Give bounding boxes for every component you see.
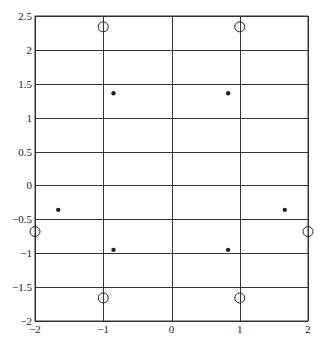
x-tick-label: −1	[97, 323, 109, 335]
y-tick-label: −1	[20, 247, 32, 259]
filled-dot-marker	[111, 91, 115, 95]
y-tick-label: 1	[27, 112, 33, 124]
filled-dot-marker	[283, 208, 287, 212]
x-tick-label: 2	[305, 323, 311, 335]
x-tick-label: 0	[169, 323, 175, 335]
scatter-chart: 2.521.510.50−0.5−1−1.5−2 −2−1012	[0, 0, 325, 348]
x-axis-tick-labels: −2−1012	[29, 323, 311, 335]
y-tick-label: −1.5	[12, 281, 32, 293]
filled-dot-marker	[56, 208, 60, 212]
filled-dot-marker	[226, 248, 230, 252]
y-tick-label: 2	[27, 44, 33, 56]
filled-dot-marker	[226, 91, 230, 95]
y-tick-label: 2.5	[18, 10, 32, 22]
y-axis-tick-labels: 2.521.510.50−0.5−1−1.5−2	[12, 10, 32, 327]
open-circle-marker	[235, 293, 245, 303]
y-tick-label: 0	[27, 179, 33, 191]
x-tick-label: −2	[29, 323, 41, 335]
gridlines	[35, 16, 309, 322]
y-tick-label: 0.5	[18, 146, 32, 158]
plot-frame	[35, 16, 308, 321]
y-tick-label: −0.5	[12, 213, 32, 225]
y-tick-label: 1.5	[18, 78, 32, 90]
filled-dot-marker	[111, 248, 115, 252]
data-markers	[30, 22, 313, 303]
x-tick-label: 1	[237, 323, 243, 335]
open-circle-marker	[235, 22, 245, 32]
